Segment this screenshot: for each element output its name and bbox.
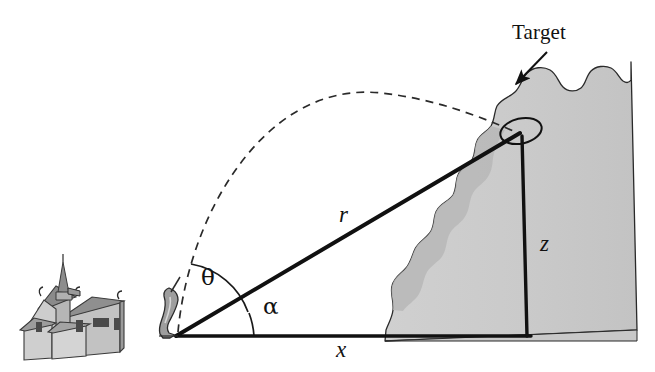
church-window-4 <box>36 322 42 332</box>
church-window-1 <box>76 320 83 332</box>
launch-angle-label-theta: θ <box>201 266 215 289</box>
hillside-body <box>385 62 637 341</box>
diagram-canvas <box>0 0 655 372</box>
church-window-3 <box>114 318 120 330</box>
range-label-r: r <box>339 203 348 226</box>
church-window-2 <box>93 318 109 327</box>
elevation-angle-label-alpha: α <box>263 295 279 318</box>
mortar-cannon <box>159 277 180 338</box>
church-ornament-right <box>118 291 122 299</box>
hillside <box>385 62 637 341</box>
horizontal-label-x: x <box>336 338 346 361</box>
church-ornament-left <box>39 287 43 296</box>
church-spire <box>58 262 69 293</box>
height-label-z: z <box>540 232 549 255</box>
church-belfry-detail <box>68 288 80 296</box>
church-illustration <box>20 254 124 360</box>
cannon-barrel <box>171 277 180 292</box>
artillery-ranging-diagram: Target r x z θ α <box>0 0 655 372</box>
church-nave-end <box>120 301 124 352</box>
alpha-arc <box>249 313 254 336</box>
target-label: Target <box>512 22 566 43</box>
theta-arc <box>191 264 248 312</box>
